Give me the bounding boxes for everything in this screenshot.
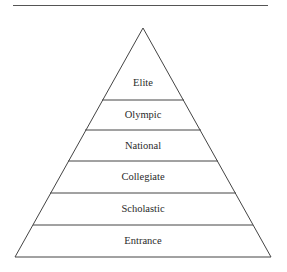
level-collegiate: Collegiate <box>63 171 223 183</box>
level-elite: Elite <box>63 77 223 89</box>
level-scholastic: Scholastic <box>63 203 223 215</box>
pyramid-shape <box>0 0 287 272</box>
level-entrance: Entrance <box>63 235 223 247</box>
level-national: National <box>63 140 223 152</box>
level-olympic: Olympic <box>63 109 223 121</box>
